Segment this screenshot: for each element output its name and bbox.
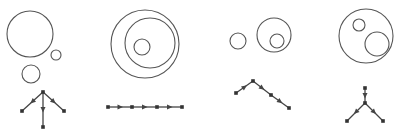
graph-node — [251, 79, 255, 83]
set-circle — [51, 50, 61, 60]
graph-node — [381, 119, 385, 123]
arrowhead-icon — [142, 105, 148, 110]
panel-3 — [230, 18, 291, 110]
set-circle — [7, 11, 53, 57]
panel-1 — [7, 11, 66, 129]
set-circle — [270, 34, 284, 48]
set-circle — [365, 32, 389, 56]
graph-node — [234, 91, 238, 95]
arrowhead-icon — [363, 93, 368, 99]
set-circle — [125, 18, 175, 68]
graph-node — [180, 105, 184, 109]
graph-node — [155, 105, 159, 109]
arrowhead-icon — [41, 107, 46, 113]
graph-node — [62, 109, 66, 113]
graph-node — [363, 86, 367, 90]
graph-node — [130, 105, 134, 109]
panel-2 — [106, 10, 184, 110]
set-circle — [134, 39, 150, 55]
graph-node — [20, 109, 24, 113]
graph-node — [269, 93, 273, 97]
set-circle — [353, 19, 365, 31]
graph-node — [41, 90, 45, 94]
graph-node — [287, 106, 291, 110]
graph-node — [41, 125, 45, 129]
set-circle — [230, 33, 246, 49]
panel-4 — [339, 9, 393, 123]
graph-node — [363, 101, 367, 105]
arrowhead-icon — [118, 105, 124, 110]
arrowhead-icon — [167, 105, 173, 110]
set-circle — [22, 65, 40, 83]
graph-node — [345, 119, 349, 123]
circles-and-graphs-diagram — [0, 0, 398, 132]
set-circle — [339, 9, 393, 63]
graph-node — [106, 105, 110, 109]
